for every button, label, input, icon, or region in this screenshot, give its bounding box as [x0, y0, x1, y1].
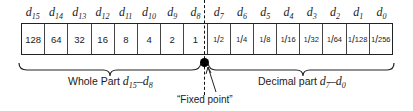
whole-part-caption: Whole Part d15–d8: [68, 74, 153, 90]
decimal-part-caption: Decimal part d7–d0: [258, 74, 346, 90]
fixed-point-caption: “Fixed point”: [177, 94, 233, 105]
fixed-point-arrow-icon: [206, 67, 216, 92]
